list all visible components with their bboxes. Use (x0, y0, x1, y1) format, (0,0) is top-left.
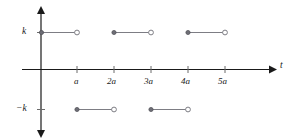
square-wave-figure: k −k t a 2a 3a 4a 5a (0, 0, 289, 139)
endpoint-filled-2a-k (112, 30, 116, 34)
endpoint-open-2a-minusk (112, 107, 117, 112)
x-axis (22, 66, 277, 74)
endpoint-open-3a-k (149, 30, 154, 35)
endpoint-filled-a-minusk (75, 107, 79, 111)
y-label-k: k (22, 27, 26, 37)
x-tick-label-5a: 5a (218, 77, 227, 86)
plot-canvas (0, 0, 289, 139)
x-tick-label-a: a (74, 77, 79, 86)
arrow-down-icon (37, 130, 45, 138)
endpoint-open-a-k (75, 30, 80, 35)
endpoint-open-4a-minusk (186, 107, 191, 112)
data-series-square-wave (39, 30, 227, 112)
arrow-right-icon (269, 66, 277, 74)
x-tick-label-3a: 3a (144, 77, 153, 86)
arrow-up-icon (37, 6, 45, 14)
x-tick-label-2a: 2a (107, 77, 116, 86)
endpoint-open-5a-k (223, 30, 228, 35)
y-label-minus-k: −k (16, 104, 27, 114)
endpoint-filled-4a-k (186, 30, 190, 34)
x-axis-label-t: t (280, 61, 283, 71)
x-tick-label-4a: 4a (181, 77, 190, 86)
endpoint-filled-0-k (39, 30, 43, 34)
endpoint-filled-3a-minusk (149, 107, 153, 111)
y-axis (37, 6, 45, 138)
